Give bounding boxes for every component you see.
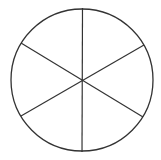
sectored-circle-diagram xyxy=(0,0,161,160)
